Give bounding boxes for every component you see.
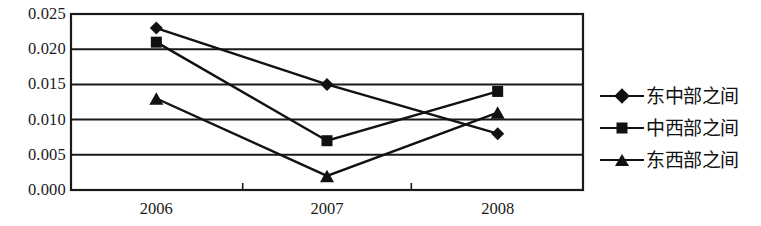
x-tick-label: 2008 [481,201,514,218]
chart-legend: 东中部之间 中西部之间 东西部之间 [600,80,761,176]
legend-item-central-west[interactable]: 中西部之间 [600,112,761,144]
legend-label: 中西部之间 [644,119,739,138]
square-marker-icon [322,135,333,146]
x-tick-label: 2007 [311,201,344,218]
line-chart: 0.025 0.020 0.015 0.010 0.005 0.000 [0,0,761,226]
legend-symbol-triangle [600,150,644,170]
legend-item-east-west[interactable]: 东西部之间 [600,144,761,176]
plot-background [71,14,583,190]
legend-label: 东西部之间 [644,151,739,170]
legend-symbol-diamond [600,86,644,106]
legend-label: 东中部之间 [644,87,739,106]
square-marker-icon [492,86,503,97]
legend-symbol-square [600,118,644,138]
square-marker-icon [151,37,162,48]
x-tick-label: 2006 [140,201,173,218]
diamond-marker-icon [614,88,630,104]
square-marker-icon [617,123,628,134]
triangle-marker-icon [615,154,629,166]
legend-item-east-central[interactable]: 东中部之间 [600,80,761,112]
